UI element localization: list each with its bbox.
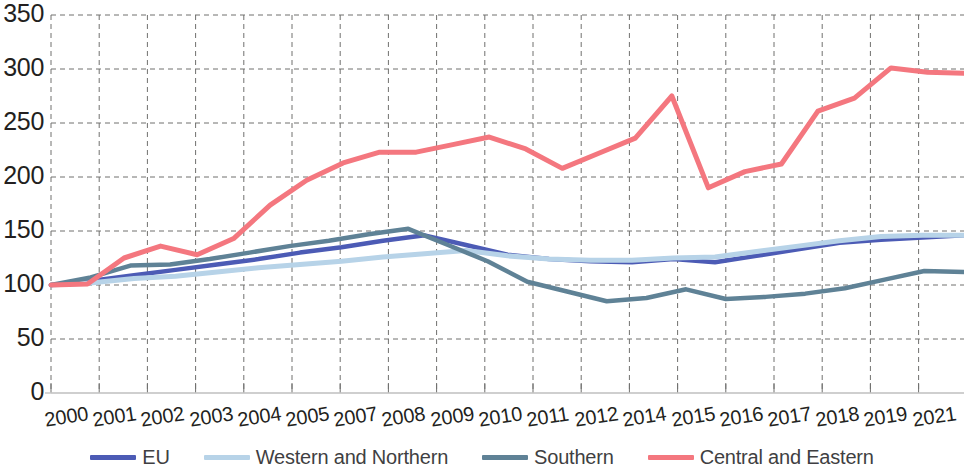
y-axis-tick-label: 300	[0, 53, 44, 82]
line-chart: 350300250200150100500 200020012002200320…	[0, 0, 964, 471]
data-series-group	[51, 68, 964, 301]
y-axis-tick-label: 350	[0, 0, 44, 28]
legend-swatch-icon	[90, 455, 136, 460]
legend-item[interactable]: EU	[90, 446, 169, 469]
series-line-southern	[51, 229, 964, 301]
horizontal-gridlines	[51, 15, 964, 393]
vertical-gridlines	[51, 15, 919, 393]
y-axis-tick-label: 150	[0, 215, 44, 244]
legend-label: Western and Northern	[256, 446, 448, 469]
legend-label: Central and Eastern	[700, 446, 874, 469]
chart-legend: EUWestern and NorthernSouthernCentral an…	[0, 443, 964, 471]
legend-swatch-icon	[482, 455, 528, 460]
chart-plot-svg	[0, 0, 964, 471]
y-axis-tick-label: 50	[0, 323, 44, 352]
legend-label: EU	[142, 446, 169, 469]
legend-item[interactable]: Western and Northern	[204, 446, 448, 469]
y-axis-tick-label: 100	[0, 269, 44, 298]
legend-label: Southern	[534, 446, 614, 469]
legend-item[interactable]: Central and Eastern	[648, 446, 874, 469]
legend-swatch-icon	[648, 455, 694, 460]
legend-item[interactable]: Southern	[482, 446, 614, 469]
y-axis-tick-label: 200	[0, 161, 44, 190]
y-axis-tick-label: 250	[0, 107, 44, 136]
legend-swatch-icon	[204, 455, 250, 460]
series-line-central-and-eastern	[51, 68, 964, 285]
y-axis-tick-label: 0	[0, 377, 44, 406]
